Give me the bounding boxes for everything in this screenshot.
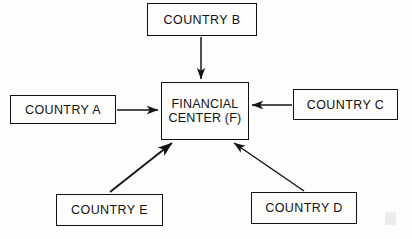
node-country-a[interactable]: COUNTRY A <box>10 95 116 124</box>
node-country-c-label: COUNTRY C <box>307 98 384 112</box>
diagram-canvas: COUNTRY B COUNTRY A FINANCIAL CENTER (F)… <box>0 0 412 239</box>
edge-country-d-to-center <box>234 143 304 191</box>
node-country-d[interactable]: COUNTRY D <box>251 192 357 224</box>
node-country-e[interactable]: COUNTRY E <box>56 194 163 226</box>
node-country-e-label: COUNTRY E <box>71 203 148 217</box>
node-country-c[interactable]: COUNTRY C <box>293 89 398 120</box>
node-country-b-label: COUNTRY B <box>164 13 241 27</box>
edge-country-e-to-center <box>110 143 172 192</box>
node-country-a-label: COUNTRY A <box>25 103 101 117</box>
node-financial-center[interactable]: FINANCIAL CENTER (F) <box>161 82 249 140</box>
node-country-b[interactable]: COUNTRY B <box>147 3 257 36</box>
node-country-d-label: COUNTRY D <box>265 201 342 215</box>
node-financial-center-label: FINANCIAL CENTER (F) <box>169 97 242 125</box>
